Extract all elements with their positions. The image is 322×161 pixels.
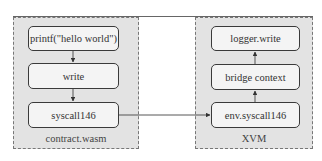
edges-layer [0,0,322,161]
